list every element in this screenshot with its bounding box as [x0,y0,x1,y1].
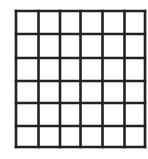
grid-diagram [0,0,148,159]
